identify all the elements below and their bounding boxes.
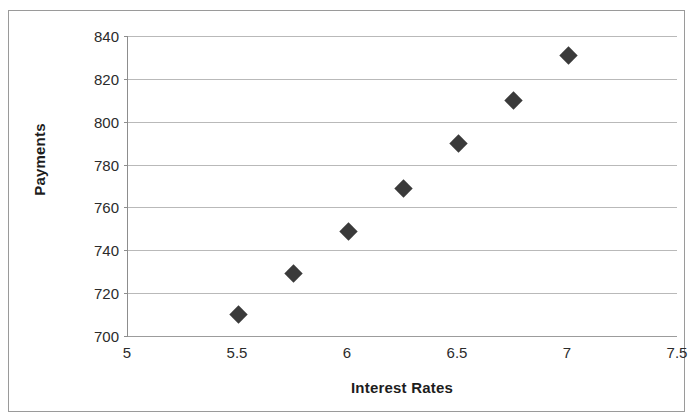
y-axis-tick-label: 700 [67,329,119,344]
y-axis-tick-label: 840 [67,29,119,44]
y-axis-tick-label: 740 [67,243,119,258]
x-axis-title: Interest Rates [127,379,677,396]
y-axis-tick-mark [124,293,128,294]
y-axis-tick-label: 800 [67,115,119,130]
y-axis-tick-label: 760 [67,200,119,215]
chart-frame: Payments 700720740760780800820840 55.566… [8,10,685,412]
y-axis-tick-mark [124,79,128,80]
y-axis-tick-mark [124,336,128,337]
y-axis-tick-label: 820 [67,72,119,87]
y-axis-tick-mark [124,122,128,123]
plot-area [127,36,677,336]
x-axis-tick-label: 7 [537,345,597,360]
y-axis-tick-label: 720 [67,286,119,301]
y-axis-tick-mark [124,36,128,37]
x-axis-tick-label: 7.5 [647,345,694,360]
y-axis-tick-label: 780 [67,158,119,173]
x-axis-tick-label: 6.5 [427,345,487,360]
y-axis-tick-mark [124,250,128,251]
y-axis-tick-mark [124,165,128,166]
x-axis-tick-labels: 55.566.577.5 [9,345,694,367]
gridline [128,336,677,337]
x-axis-tick-label: 5.5 [207,345,267,360]
x-axis-tick-label: 6 [317,345,377,360]
y-axis-tick-mark [124,207,128,208]
y-axis-tick-labels: 700720740760780800820840 [57,36,119,336]
y-axis-title: Payments [31,110,48,210]
x-axis-tick-label: 5 [97,345,157,360]
